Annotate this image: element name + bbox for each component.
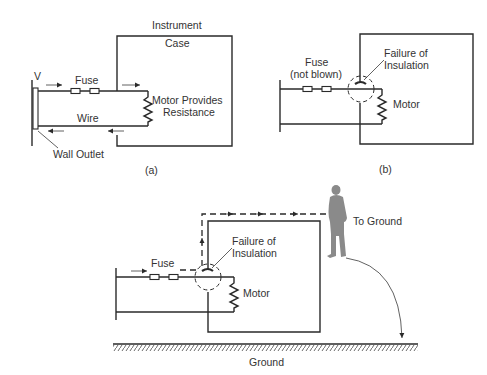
caption-a: (a)	[145, 164, 158, 176]
fuse-label: Fuse	[75, 74, 99, 86]
motor-label-line1: Motor Provides	[152, 94, 223, 106]
failure-label-line1: Failure of	[232, 235, 276, 247]
failure-label-line1: Failure of	[384, 47, 428, 59]
insulation-failure-icon	[355, 82, 366, 84]
fuse-icon	[71, 89, 80, 94]
motor-resistor-icon	[144, 91, 152, 126]
fuse-label-line1: Fuse	[305, 56, 329, 68]
ground-label: Ground	[249, 356, 284, 368]
failure-pointer	[364, 60, 384, 80]
motor-label: Motor	[393, 98, 420, 110]
failure-pointer	[212, 248, 232, 268]
fuse-icon	[303, 87, 312, 92]
to-ground-label: To Ground	[353, 215, 402, 227]
motor-resistor-icon	[378, 89, 386, 124]
motor-label: Motor	[243, 287, 270, 299]
diagram-a: V Fuse Wire Wall Outlet Instrument Case …	[32, 19, 232, 176]
diagram-c: Fuse Failure of Insulation Motor To Grou…	[113, 185, 418, 368]
caption-b: (b)	[379, 163, 392, 175]
fuse-icon	[169, 275, 178, 280]
electrical-ground-fault-diagram: V Fuse Wire Wall Outlet Instrument Case …	[0, 0, 487, 375]
ground-hatch	[113, 345, 418, 351]
fuse-icon	[90, 89, 99, 94]
fuse-label-line2: (not blown)	[290, 68, 342, 80]
wall-outlet-pointer	[38, 131, 58, 148]
wire-label: Wire	[77, 112, 99, 124]
wall-outlet-icon	[33, 88, 38, 129]
diagram-b: Fuse (not blown) Failure of Insulation M…	[280, 34, 473, 175]
motor-label-line2: Resistance	[163, 106, 215, 118]
fuse-icon	[322, 87, 331, 92]
person-silhouette-icon	[327, 185, 347, 258]
voltage-label: V	[34, 70, 41, 82]
wall-outlet-label: Wall Outlet	[53, 148, 104, 160]
case-label-line2: Case	[165, 37, 190, 49]
fuse-label: Fuse	[151, 257, 175, 269]
motor-resistor-icon	[230, 277, 238, 312]
failure-label-line2: Insulation	[232, 247, 277, 259]
failure-label-line2: Insulation	[384, 59, 429, 71]
case-label-line1: Instrument	[152, 19, 202, 31]
insulation-failure-icon	[202, 269, 213, 271]
fuse-icon	[150, 275, 159, 280]
ground-path-curve	[346, 258, 402, 338]
